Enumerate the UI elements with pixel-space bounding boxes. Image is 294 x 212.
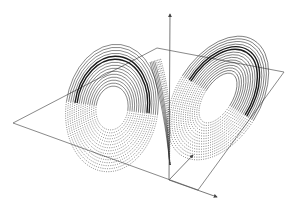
- attractor-plot: [0, 0, 294, 212]
- y-axis-arrow: [169, 155, 193, 180]
- x-axis-arrow: [169, 180, 217, 197]
- right-lobe: [146, 18, 289, 178]
- lorenz-attractor-figure: Lorenz attractor: [0, 0, 294, 212]
- left-lobe: [58, 38, 167, 178]
- attractor-trajectory: [58, 18, 290, 178]
- axes: [169, 14, 217, 197]
